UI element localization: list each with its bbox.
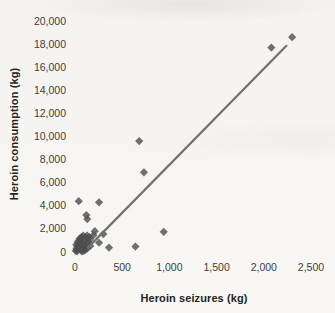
y-tick-label: 16,000 (34, 61, 66, 73)
y-tick-label: 2,000 (40, 222, 66, 234)
x-tick-label: 2,000 (251, 261, 277, 273)
y-tick-label: 18,000 (34, 38, 66, 50)
scatter-chart: 02,0004,0006,0008,00010,00012,00014,0001… (0, 0, 335, 313)
data-point (135, 137, 143, 145)
x-axis-title: Heroin seizures (kg) (75, 292, 313, 304)
data-point (131, 242, 139, 250)
data-point (140, 168, 148, 176)
data-point (288, 33, 296, 41)
y-tick-label: 20,000 (34, 15, 66, 27)
trend-line (88, 46, 286, 248)
data-point (95, 198, 103, 206)
data-point (160, 228, 168, 236)
data-point (105, 244, 113, 252)
y-tick-label: 8,000 (40, 153, 66, 165)
y-tick-label: 6,000 (40, 176, 66, 188)
x-tick-label: 1,500 (203, 261, 229, 273)
scatter-points (72, 33, 297, 255)
plot-canvas: 02,0004,0006,0008,00010,00012,00014,0001… (0, 0, 335, 313)
x-tick-label: 2,500 (298, 261, 324, 273)
y-tick-label: 0 (60, 246, 66, 258)
y-tick-label: 14,000 (34, 84, 66, 96)
data-point (75, 197, 83, 205)
x-tick-label: 0 (72, 261, 78, 273)
data-point (267, 43, 275, 51)
y-tick-label: 10,000 (34, 130, 66, 142)
y-tick-label: 4,000 (40, 199, 66, 211)
y-axis-title: Heroin consumption (kg) (8, 23, 20, 245)
y-tick-label: 12,000 (34, 107, 66, 119)
x-tick-label: 1,000 (156, 261, 182, 273)
x-tick-label: 500 (113, 261, 131, 273)
